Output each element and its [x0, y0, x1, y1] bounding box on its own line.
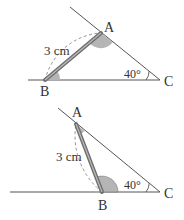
- label-b: B: [40, 84, 49, 99]
- angle-arc-c: [146, 183, 149, 192]
- angle-label: 40°: [124, 67, 141, 81]
- length-label: 3 cm: [44, 43, 70, 58]
- figure-top: A B C 3 cm 40°: [28, 7, 173, 99]
- ray-from-c: [70, 7, 160, 80]
- label-c: C: [164, 186, 173, 201]
- label-a: A: [104, 20, 115, 35]
- angle-arc-c: [146, 71, 149, 80]
- angle-label: 40°: [124, 178, 141, 192]
- label-b: B: [98, 198, 107, 213]
- diagram-canvas: A B C 3 cm 40° A B C 3 cm 40°: [0, 0, 184, 220]
- label-c: C: [164, 74, 173, 89]
- length-label: 3 cm: [56, 149, 82, 164]
- figure-bottom: A B C 3 cm 40°: [10, 105, 173, 213]
- label-a: A: [72, 105, 83, 120]
